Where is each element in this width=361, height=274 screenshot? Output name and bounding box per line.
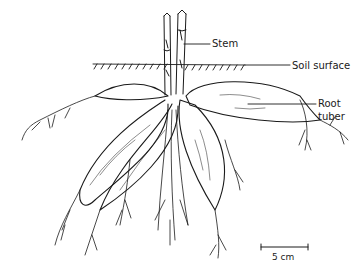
soil-surface-label: Soil surface bbox=[292, 60, 350, 71]
stems bbox=[164, 10, 186, 95]
root-tubers bbox=[80, 82, 320, 210]
scale-bar bbox=[261, 244, 308, 250]
tuber-illustration bbox=[0, 0, 361, 274]
scale-bar-label: 5 cm bbox=[272, 252, 294, 263]
fibrous-roots bbox=[22, 96, 348, 258]
root-tuber-label-line2: tuber bbox=[318, 111, 345, 122]
stem-label: Stem bbox=[212, 38, 238, 49]
soil-surface-hatching bbox=[93, 64, 245, 70]
root-tuber-label-line1: Root bbox=[318, 98, 341, 109]
label-leaders bbox=[184, 44, 316, 104]
